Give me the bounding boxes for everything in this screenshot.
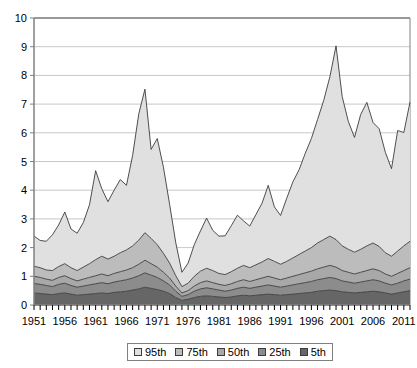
x-tick-label: 2001 bbox=[330, 315, 354, 327]
y-tick-label: 10 bbox=[15, 12, 27, 24]
x-tick-label: 1991 bbox=[268, 315, 292, 327]
legend-item-95th[interactable]: 95th bbox=[134, 346, 166, 358]
y-tick-label: 4 bbox=[21, 184, 27, 196]
y-axis bbox=[30, 18, 34, 305]
plot-canvas: 012345678910 195119561961196619711976198… bbox=[0, 0, 417, 368]
x-tick-label: 1971 bbox=[145, 315, 169, 327]
y-tick-label: 2 bbox=[21, 242, 27, 254]
legend-label-50th: 50th bbox=[228, 346, 249, 358]
y-tick-label: 1 bbox=[21, 270, 27, 282]
y-tick-label: 7 bbox=[21, 98, 27, 110]
x-tick-label: 1966 bbox=[114, 315, 138, 327]
legend-label-75th: 75th bbox=[186, 346, 207, 358]
legend-swatch-5th bbox=[300, 348, 308, 356]
x-axis bbox=[34, 305, 410, 310]
legend-label-95th: 95th bbox=[145, 346, 166, 358]
y-tick-label: 9 bbox=[21, 41, 27, 53]
y-axis-tick-labels: 012345678910 bbox=[15, 12, 27, 311]
legend-swatch-25th bbox=[258, 348, 266, 356]
x-tick-label: 1976 bbox=[176, 315, 200, 327]
legend-label-25th: 25th bbox=[269, 346, 290, 358]
x-tick-label: 1986 bbox=[237, 315, 261, 327]
legend-item-75th[interactable]: 75th bbox=[175, 346, 207, 358]
percentile-stacked-area-chart: 012345678910 195119561961196619711976198… bbox=[0, 0, 417, 368]
x-tick-label: 1951 bbox=[22, 315, 46, 327]
x-axis-tick-labels: 1951195619611966197119761981198619911996… bbox=[22, 315, 416, 327]
stacked-area-series bbox=[34, 46, 410, 305]
y-tick-label: 5 bbox=[21, 156, 27, 168]
legend-item-5th[interactable]: 5th bbox=[300, 346, 326, 358]
y-tick-label: 3 bbox=[21, 213, 27, 225]
x-tick-label: 1961 bbox=[83, 315, 107, 327]
area-band-95th bbox=[34, 46, 410, 287]
chart-legend: 95th75th50th25th5th bbox=[127, 343, 333, 361]
legend-label-5th: 5th bbox=[311, 346, 326, 358]
x-tick-label: 1981 bbox=[207, 315, 231, 327]
legend-swatch-95th bbox=[134, 348, 142, 356]
legend-swatch-75th bbox=[175, 348, 183, 356]
y-tick-label: 6 bbox=[21, 127, 27, 139]
y-tick-label: 0 bbox=[21, 299, 27, 311]
legend-item-25th[interactable]: 25th bbox=[258, 346, 290, 358]
x-tick-label: 2006 bbox=[361, 315, 385, 327]
legend-item-50th[interactable]: 50th bbox=[217, 346, 249, 358]
x-tick-label: 2011 bbox=[392, 315, 416, 327]
x-tick-label: 1996 bbox=[299, 315, 323, 327]
x-tick-label: 1956 bbox=[53, 315, 77, 327]
y-tick-label: 8 bbox=[21, 69, 27, 81]
legend-swatch-50th bbox=[217, 348, 225, 356]
